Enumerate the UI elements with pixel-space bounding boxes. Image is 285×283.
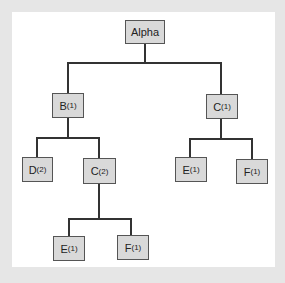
edge-c2-bar — [68, 218, 132, 220]
node-subscript: (1) — [67, 101, 77, 110]
node-f1-right: F(1) — [236, 159, 268, 184]
node-c1: C(1) — [206, 94, 238, 119]
node-f1-bottom: F(1) — [117, 235, 149, 260]
edge-alpha-bar — [67, 62, 222, 64]
edge-b1-down — [67, 117, 69, 138]
edge-to-e1-right — [189, 138, 191, 157]
node-label: B — [59, 100, 66, 112]
node-subscript: (1) — [221, 102, 231, 111]
edge-to-f1-bottom — [130, 218, 132, 235]
edge-b1-bar — [36, 137, 100, 139]
node-label: E — [60, 243, 67, 255]
node-label: D — [29, 164, 37, 176]
edge-to-c1 — [220, 62, 222, 94]
node-label: C — [213, 101, 221, 113]
edge-to-d2 — [36, 137, 38, 157]
edge-c2-down — [98, 183, 100, 219]
node-b1: B(1) — [52, 93, 84, 118]
node-subscript: (1) — [250, 167, 260, 176]
node-label: E — [182, 164, 189, 176]
node-subscript: (1) — [131, 243, 141, 252]
edge-c1-down — [220, 118, 222, 139]
node-e1-bottom: E(1) — [53, 236, 85, 261]
node-e1-right: E(1) — [175, 157, 207, 182]
edge-to-e1-bottom — [68, 218, 70, 236]
node-alpha: Alpha — [125, 20, 165, 44]
node-label: C — [91, 165, 99, 177]
node-c2: C(2) — [83, 158, 116, 184]
node-label: F — [244, 166, 251, 178]
node-d2: D(2) — [22, 157, 53, 182]
node-subscript: (2) — [37, 165, 47, 174]
edge-to-f1-right — [251, 138, 253, 159]
node-subscript: (2) — [99, 167, 109, 176]
edge-alpha-down — [144, 43, 146, 64]
edge-c1-bar — [189, 138, 253, 140]
node-label: F — [125, 242, 132, 254]
node-subscript: (1) — [68, 244, 78, 253]
node-label: Alpha — [131, 26, 159, 38]
edge-to-c2 — [98, 137, 100, 158]
node-subscript: (1) — [190, 165, 200, 174]
edge-to-b1 — [67, 62, 69, 93]
